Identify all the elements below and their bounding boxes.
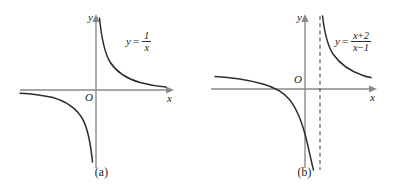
equation-b-num-right: 2 [364,30,369,41]
equation-a-equals: = [133,36,139,47]
caption-a: (a) [0,166,203,178]
equation-b-lhs: y [335,36,340,47]
origin-label-b: O [294,74,302,85]
origin-label-a: O [85,92,93,103]
y-axis-label-a: y [88,12,93,23]
y-axis-arrow-b [301,14,308,22]
equation-a-lhs: y [126,36,131,47]
equation-b-fraction: x+2 x−1 [351,30,371,53]
equation-a-fraction: 1 x [142,30,151,53]
curve-a-branch-2 [20,93,93,162]
equation-label-b: y = x+2 x−1 [335,30,371,53]
x-axis-label-b: x [370,92,375,103]
equation-a-numerator: 1 [142,30,151,41]
equation-label-a: y = 1 x [126,30,151,53]
panel-b: y x O y = x+2 x−1 (b) [203,0,406,195]
y-axis-label-b: y [297,12,302,23]
math-figure: y x O y = 1 x (a) y x [0,0,406,195]
caption-b: (b) [203,166,406,178]
panel-a: y x O y = 1 x (a) [0,0,203,195]
equation-b-den-right: 1 [364,42,369,53]
equation-a-denominator: x [142,41,151,53]
curve-b-branch-2 [215,77,314,171]
equation-b-denominator: x−1 [351,41,371,53]
y-axis-arrow-a [92,14,99,22]
x-axis-label-a: x [167,93,172,104]
equation-b-numerator: x+2 [351,30,371,41]
equation-b-equals: = [342,36,348,47]
